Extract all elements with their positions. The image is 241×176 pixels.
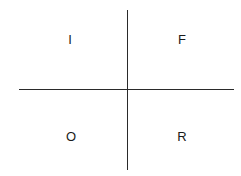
horizontal-axis-line [19,89,234,90]
vertical-axis-line [127,10,128,170]
quadrant-label-top-left: I [60,33,80,46]
quadrant-label-top-right: F [172,33,192,46]
quadrant-diagram: I F O R [0,0,241,176]
quadrant-label-bottom-left: O [61,130,81,143]
quadrant-label-bottom-right: R [172,130,192,143]
